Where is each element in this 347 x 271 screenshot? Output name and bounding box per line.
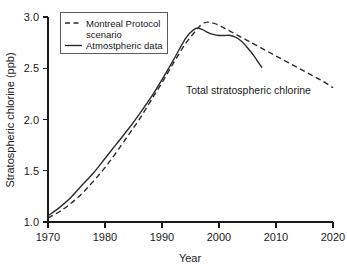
y-tick-label-2.5: 2.5 — [24, 62, 39, 74]
y-tick-label-3.0: 3.0 — [24, 11, 39, 23]
x-tick-label-1990: 1990 — [150, 231, 174, 243]
chart-figure: 1.0 1.5 2.0 2.5 3.0 1970 1980 1990 2000 … — [0, 0, 347, 271]
x-axis-title: Year — [179, 252, 202, 264]
x-tick-label-1980: 1980 — [93, 231, 117, 243]
stratospheric-chlorine-line-chart: 1.0 1.5 2.0 2.5 3.0 1970 1980 1990 2000 … — [0, 0, 347, 271]
x-tick-label-2010: 2010 — [264, 231, 288, 243]
legend-label-montreal-protocol-line2: scenario — [86, 29, 122, 40]
annotation-total-stratospheric-chlorine: Total stratospheric chlorine — [186, 84, 311, 96]
legend-label-montreal-protocol-line1: Montreal Protocol — [86, 18, 160, 29]
legend-label-atmospheric-data: Atmostpheric data — [86, 40, 163, 51]
x-tick-label-1970: 1970 — [36, 231, 60, 243]
y-axis-title: Stratospheric chlorine (ppb) — [4, 52, 16, 187]
x-tick-label-2000: 2000 — [207, 231, 231, 243]
y-tick-label-1.5: 1.5 — [24, 165, 39, 177]
y-tick-label-2.0: 2.0 — [24, 114, 39, 126]
chart-legend: Montreal Protocol scenario Atmostpheric … — [61, 13, 168, 54]
x-tick-label-2020: 2020 — [321, 231, 345, 243]
y-tick-label-1.0: 1.0 — [24, 216, 39, 228]
